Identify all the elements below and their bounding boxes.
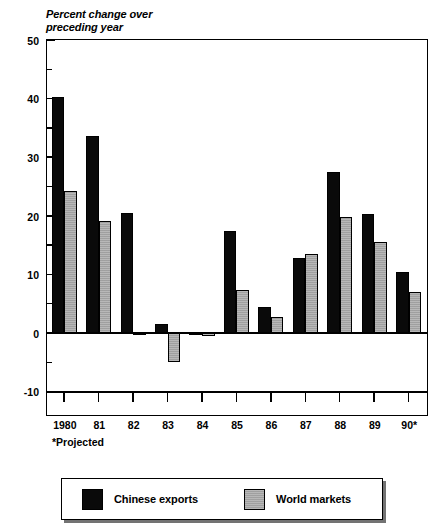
bar-87-chinese-exports [293,258,306,333]
x-axis-tick [305,393,307,402]
bar-83-world-markets [168,333,181,362]
y-axis-tick-label: 0 [0,328,39,340]
x-axis-tick-label: 88 [334,419,346,431]
x-axis-tick-label: 87 [300,419,312,431]
x-axis-tick-label: 82 [128,419,140,431]
x-axis-tick [167,393,169,402]
x-axis-tick [98,393,100,402]
legend-label-world-markets: World markets [276,493,351,505]
x-axis-tick-label: 85 [231,419,243,431]
legend-entry-world-markets: World markets [244,489,351,510]
x-axis-tick-label: 84 [197,419,209,431]
chart-figure: Percent change over preceding year *Proj… [0,0,445,532]
x-axis-tick [339,393,341,402]
bar-84-world-markets [202,333,215,335]
plot-area [47,40,427,415]
bar-86-chinese-exports [258,307,271,333]
x-axis-tick [132,393,134,402]
bar-85-chinese-exports [224,231,237,333]
x-axis-tick [63,393,65,402]
bar-88-chinese-exports [327,172,340,333]
y-axis-tick-label: 10 [0,269,39,281]
x-axis-tick [270,393,272,402]
x-axis-tick-label: 86 [266,419,278,431]
bar-85-world-markets [236,290,249,333]
legend-swatch-icon-world-markets [244,489,265,510]
bar-82-world-markets [133,333,146,335]
x-axis-tick-label: 81 [93,419,105,431]
x-axis-tick [408,393,410,402]
legend-label-chinese-exports: Chinese exports [114,493,198,505]
bar-1980-world-markets [64,191,77,333]
y-axis-tick-label: 30 [0,152,39,164]
legend-swatch-icon-chinese-exports [82,489,103,510]
bar-90-world-markets [409,292,422,333]
bar-89-world-markets [374,242,387,333]
y-axis-tick-label: 40 [0,93,39,105]
x-axis-tick [236,393,238,402]
y-axis-tick [47,69,52,70]
chart-footnote: *Projected [52,436,104,448]
bar-86-world-markets [271,317,284,333]
y-axis-tick [47,362,52,363]
bar-84-chinese-exports [189,333,202,335]
chart-legend: Chinese exports World markets [61,478,383,520]
bar-89-chinese-exports [362,214,375,333]
y-axis-tick-label: 20 [0,211,39,223]
y-axis-tick [47,39,55,41]
y-axis-tick-label: -10 [0,386,39,398]
chart-axis-title: Percent change over preceding year [46,8,152,33]
bar-81-world-markets [99,221,112,334]
bar-82-chinese-exports [121,213,134,333]
x-axis-tick [373,393,375,402]
x-axis-tick-label: 1980 [53,419,76,431]
plot-frame [46,39,428,416]
x-axis-tick-label: 89 [369,419,381,431]
bar-1980-chinese-exports [52,97,65,333]
bar-81-chinese-exports [86,136,99,334]
y-axis-tick [47,391,55,393]
bar-88-world-markets [340,217,353,333]
legend-entry-chinese-exports: Chinese exports [82,489,198,510]
bar-83-chinese-exports [155,324,168,333]
x-axis-tick-label: 83 [162,419,174,431]
x-axis-tick-label: 90* [401,419,417,431]
bar-90-chinese-exports [396,272,409,334]
x-axis-tick [201,393,203,402]
bar-87-world-markets [305,254,318,333]
y-axis-tick-label: 50 [0,35,39,47]
